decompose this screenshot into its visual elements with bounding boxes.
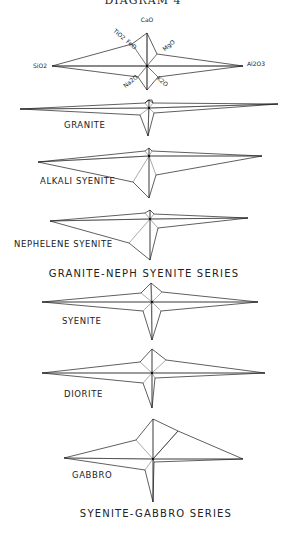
diagram-canvas: CaOTiO2FeOMgOSiO2Al2O3Na2OK2OGRANITEALKA… [0, 0, 286, 540]
rock-diagram-nephelene-syenite: NEPHELENE SYENITE [14, 210, 248, 260]
figure-title: DIAGRAM 4 [0, 0, 286, 7]
rock-diagram-gabbro: GABBRO [64, 419, 243, 502]
rock-label: SYENITE [62, 316, 102, 326]
axis-label-tio2: TiO2 [111, 26, 127, 41]
rock-diagram-alkali-syenite: ALKALI SYENITE [38, 148, 262, 198]
rock-diagram-granite: GRANITE [20, 100, 278, 136]
rock-diagram-diorite: DIORITE [42, 349, 265, 408]
axis-label-sio2: SiO2 [33, 62, 47, 69]
series-label: GRANITE-NEPH SYENITE SERIES [49, 268, 240, 279]
rock-label: GABBRO [72, 470, 112, 480]
axis-label-cao: CaO [141, 16, 154, 23]
key-diagram: CaOTiO2FeOMgOSiO2Al2O3Na2OK2O [33, 16, 265, 90]
rock-diagram-syenite: SYENITE [42, 283, 258, 340]
oxide-star-diagram-figure: DIAGRAM 4 CaOTiO2FeOMgOSiO2Al2O3Na2OK2OG… [0, 0, 286, 540]
axis-label-al2o3: Al2O3 [247, 60, 265, 67]
axis-label-k2o: K2O [156, 74, 170, 88]
rock-label: ALKALI SYENITE [40, 176, 116, 186]
rock-label: DIORITE [64, 389, 103, 399]
rock-label: GRANITE [64, 120, 106, 130]
series-label: SYENITE-GABBRO SERIES [80, 508, 232, 519]
axis-label-mgo: MgO [161, 38, 177, 53]
rock-label: NEPHELENE SYENITE [14, 239, 113, 249]
axis-label-feo: FeO [125, 38, 139, 51]
